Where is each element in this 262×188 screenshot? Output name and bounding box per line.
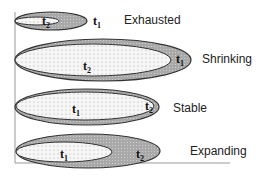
inner-ellipse	[15, 17, 59, 25]
diagram-canvas: t2 t1 Exhausted t2 t1 Shrinking t1 t2 St…	[0, 0, 262, 188]
inner-ellipse	[16, 92, 154, 120]
row-label: Stable	[173, 101, 207, 115]
row-shrinking: t2 t1 Shrinking	[15, 39, 252, 81]
row-label: Exhausted	[124, 13, 181, 27]
inner-ellipse	[15, 44, 171, 76]
row-stable: t1 t2 Stable	[15, 89, 207, 125]
row-exhausted: t2 t1 Exhausted	[15, 12, 181, 30]
outer-label: t1	[93, 14, 101, 30]
row-label: Shrinking	[202, 52, 252, 66]
row-label: Expanding	[190, 144, 247, 158]
